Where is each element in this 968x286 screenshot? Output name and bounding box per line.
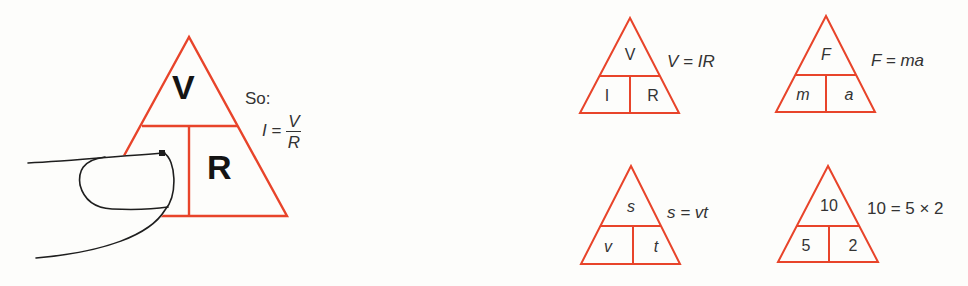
example-1-formula: V = IR [667, 53, 715, 70]
formula-lhs: I [262, 121, 267, 140]
example-2-bottom-left-label: m [796, 87, 809, 103]
example-3-bottom-right-label: t [654, 239, 658, 255]
example-triangle-distance [581, 166, 680, 264]
example-4-bottom-right-label: 2 [849, 238, 858, 254]
fraction-numerator: V [286, 113, 301, 132]
example-3-bottom-left-label: v [604, 239, 612, 255]
example-4-bottom-left-label: 5 [802, 238, 811, 254]
formula-equals: = [271, 121, 281, 140]
main-triangle-bottom-right-label: R [207, 150, 232, 184]
example-4-top-label: 10 [820, 198, 838, 214]
so-label: So: [245, 90, 271, 107]
diagram-canvas [0, 0, 968, 286]
example-1-bottom-right-label: R [647, 88, 659, 104]
example-triangle-force [776, 16, 875, 112]
derived-formula: I = V R [262, 113, 301, 151]
example-triangle-voltage [580, 18, 679, 113]
example-2-formula: F = ma [871, 52, 924, 69]
example-3-formula: s = vt [667, 204, 708, 221]
example-1-top-label: V [625, 47, 636, 63]
example-2-top-label: F [821, 47, 831, 63]
fraction-denominator: R [288, 132, 300, 151]
finger-icon [28, 150, 176, 258]
example-1-bottom-left-label: I [605, 88, 609, 104]
example-2-bottom-right-label: a [845, 87, 854, 103]
example-triangle-numbers [778, 166, 878, 262]
example-3-top-label: s [627, 199, 635, 215]
formula-fraction: V R [286, 113, 301, 151]
example-4-formula: 10 = 5 × 2 [867, 200, 944, 217]
main-triangle-top-label: V [172, 70, 195, 104]
